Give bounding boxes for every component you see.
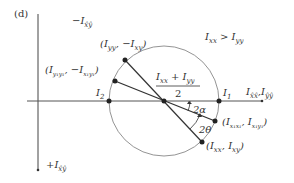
- label-2alpha: 2α: [192, 104, 206, 115]
- label-point-Iy1y1: (Iy₁y₁, −Ix₁y₁): [45, 64, 99, 78]
- point-Ix1x1: [213, 119, 218, 124]
- label-point-Ixx: (Ixx, Ixy): [206, 140, 244, 154]
- point-Iy1y1: [113, 79, 118, 84]
- point-center: [162, 99, 167, 104]
- point-I1: [217, 99, 222, 104]
- point-Iyy: [123, 58, 128, 63]
- horizontal-axis-label: Ix̂x̂,Iŷŷ: [245, 86, 274, 100]
- center-denominator: 2: [175, 88, 181, 99]
- point-Ixx: [200, 140, 205, 145]
- vertical-axis-top-label: −Ix̂ŷ: [72, 15, 93, 29]
- label-point-Ix1x1: (Ix₁x₁, Ix₁y₁): [222, 116, 267, 130]
- label-point-Iyy: (Iyy, −Ixy): [100, 38, 146, 52]
- horizontal-axis-end-dot: [261, 100, 264, 103]
- panel-label: (d): [14, 8, 28, 19]
- label-2theta: 2θ: [198, 124, 211, 135]
- center-numerator: Ixx + Iyy: [155, 71, 196, 85]
- point-I2: [107, 99, 112, 104]
- vertical-axis-bottom-label: +Ix̂ŷ: [46, 159, 67, 173]
- condition-label: Ixx > Iyy: [204, 31, 245, 45]
- mohr-circle-diagram: (d) −Ix̂ŷ +Ix̂ŷ Ix̂x̂,Iŷŷ Ixx > Iyy Ixx …: [0, 0, 294, 183]
- label-I2: I2: [95, 87, 105, 101]
- label-I1: I1: [222, 87, 231, 101]
- vertical-axis-end-dot: [37, 169, 40, 172]
